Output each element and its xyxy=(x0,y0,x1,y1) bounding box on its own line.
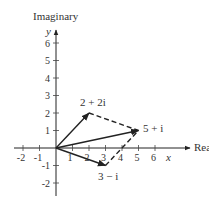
x-tick-label: 3 xyxy=(101,152,106,163)
x-tick-label: 2 xyxy=(85,152,90,163)
x-axis-var: x xyxy=(165,151,171,163)
complex-plane-diagram: -2 -1 1 2 3 4 5 6 6 5 4 3 2 1 -1 -2 Imag… xyxy=(0,0,209,201)
vector-5-plus-i xyxy=(56,131,139,149)
y-tick-label: 4 xyxy=(45,73,50,84)
y-tick-labels: 6 5 4 3 2 1 -1 -2 xyxy=(42,38,50,189)
x-tick-label: 4 xyxy=(118,152,123,163)
y-tick-label: 6 xyxy=(45,38,50,49)
x-tick-label: 6 xyxy=(151,152,156,163)
y-tick-label: 2 xyxy=(45,108,50,119)
x-tick-label: -2 xyxy=(17,152,25,163)
label-3-minus-i: 3 − i xyxy=(98,170,118,182)
dashed-edge-2p2i-to-5pi xyxy=(89,113,139,131)
x-axis-title: Real xyxy=(194,141,209,153)
label-2-plus-2i: 2 + 2i xyxy=(80,96,106,108)
vector-labels: 2 + 2i 3 − i 5 + i xyxy=(80,96,163,182)
x-tick-labels: -2 -1 1 2 3 4 5 6 xyxy=(17,152,156,163)
x-tick-label: 5 xyxy=(135,152,140,163)
y-tick-label: -2 xyxy=(42,178,50,189)
y-tick-label: 1 xyxy=(45,125,50,136)
y-tick-label: 3 xyxy=(45,90,50,101)
y-axis-title: Imaginary xyxy=(33,10,79,22)
label-5-plus-i: 5 + i xyxy=(143,122,163,134)
y-tick-label: -1 xyxy=(42,160,50,171)
y-tick-label: 5 xyxy=(45,55,50,66)
vector-3-minus-i xyxy=(56,148,106,166)
y-axis-var: y xyxy=(45,25,51,37)
